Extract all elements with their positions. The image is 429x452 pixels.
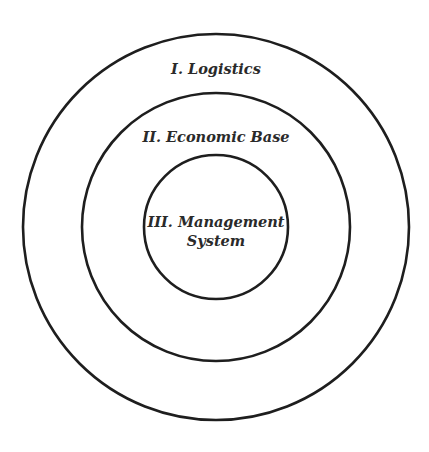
label-management-system-line2: System [187, 232, 245, 249]
label-economic-base: II. Economic Base [141, 128, 289, 145]
label-management-system-line1: III. Management [147, 213, 285, 230]
concentric-circles-diagram: I. Logistics II. Economic Base III. Mana… [0, 0, 429, 452]
label-logistics: I. Logistics [170, 60, 261, 77]
